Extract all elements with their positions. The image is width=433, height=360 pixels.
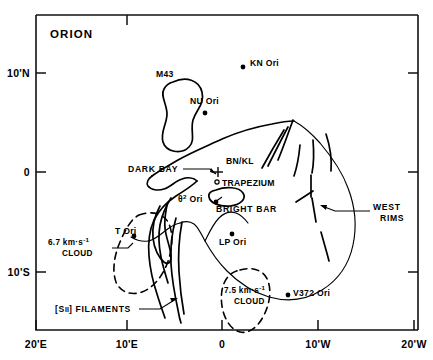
bn-kl-marker (213, 167, 223, 177)
kn-ori-marker (241, 65, 246, 70)
label-m43: M43 (156, 69, 174, 79)
sii-prefix: [S (55, 304, 65, 314)
lp-ori-marker (230, 232, 235, 237)
cloud-6-7-exponent: -1 (83, 236, 89, 243)
label-lp-ori: LP Ori (219, 237, 246, 247)
west-rims-streaks (262, 120, 331, 261)
x-tick-label-20e: 20'E (25, 338, 47, 350)
page-title: ORION (50, 28, 93, 40)
theta2-main: Ori (189, 194, 202, 204)
y-tick-label-10n: 10'N (7, 67, 30, 79)
label-bn-kl: BN/KL (226, 156, 254, 166)
orion-sky-map-figure: 10'N 0 10'S 20'E 10'E 0 10'W 20'W ORION (0, 0, 433, 360)
x-tick-label-10w: 10'W (305, 338, 330, 350)
nu-ori-marker (203, 111, 208, 116)
label-cloud-7-5: 7.5 km·s-1 CLOUD (224, 284, 266, 307)
label-theta2-ori: θ2 Ori (178, 193, 203, 205)
label-west-rims-line1: WEST (373, 202, 401, 212)
sii-suffix: ] FILAMENTS (69, 304, 131, 314)
y-tick-label-10s: 10'S (8, 266, 30, 278)
map-canvas: 10'N 0 10'S 20'E 10'E 0 10'W 20'W ORION (0, 0, 433, 360)
label-sii-filaments: [SII] FILAMENTS (55, 304, 131, 314)
label-west-rims: WEST RIMS (373, 202, 404, 223)
cloud-7-5-exponent: -1 (259, 284, 265, 291)
svg-text:θ2 Ori: θ2 Ori (178, 193, 203, 205)
trapezium-marker (215, 180, 219, 184)
label-trapezium: TRAPEZIUM (222, 178, 275, 188)
cloud-6-7-label: CLOUD (62, 249, 93, 258)
label-v372-ori: V372 Ori (293, 288, 330, 298)
label-kn-ori: KN Ori (250, 58, 279, 68)
cloud-7-5-speed: 7.5 km·s (224, 286, 259, 295)
v372-ori-marker (286, 293, 291, 298)
cloud-6-7-outline (114, 213, 172, 294)
label-west-rims-line2: RIMS (380, 213, 404, 223)
label-bright-bar: BRIGHT BAR (216, 204, 277, 214)
svg-text:[SII] FILAMENTS: [SII] FILAMENTS (55, 304, 131, 314)
label-nu-ori: NU Ori (190, 96, 219, 106)
label-t-ori: T Ori (115, 226, 137, 236)
m43-contour (162, 79, 202, 151)
x-tick-label-0: 0 (219, 338, 225, 350)
cloud-7-5-label: CLOUD (234, 297, 265, 306)
x-tick-label-20w: 20'W (401, 338, 426, 350)
label-dark-bay: DARK BAY (128, 164, 178, 174)
label-cloud-6-7: 6.7 km·s-1 CLOUD (48, 236, 93, 259)
x-tick-label-10e: 10'E (116, 338, 138, 350)
axis-frame (36, 15, 418, 330)
cloud-6-7-speed: 6.7 km·s (48, 238, 83, 247)
y-tick-label-0: 0 (24, 166, 30, 178)
svg-text:6.7 km·s-1: 6.7 km·s-1 (48, 236, 90, 248)
